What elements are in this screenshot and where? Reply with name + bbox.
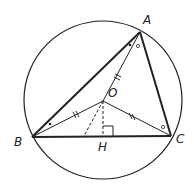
right-angle-mark	[103, 126, 113, 136]
side-bc	[32, 136, 171, 137]
label-h: H	[98, 140, 107, 154]
angle-dot-b	[49, 123, 52, 126]
label-o: O	[108, 86, 117, 100]
label-b: B	[14, 135, 22, 149]
angle-dot-a	[129, 44, 132, 47]
angle-circle-c	[161, 125, 164, 128]
label-c: C	[176, 132, 185, 146]
geometry-diagram: A B C O H	[0, 0, 194, 190]
label-a: A	[142, 13, 151, 27]
side-ab	[32, 32, 140, 137]
side-ac	[140, 32, 171, 136]
radius-ob	[32, 101, 103, 137]
angle-circle-a	[136, 44, 139, 47]
